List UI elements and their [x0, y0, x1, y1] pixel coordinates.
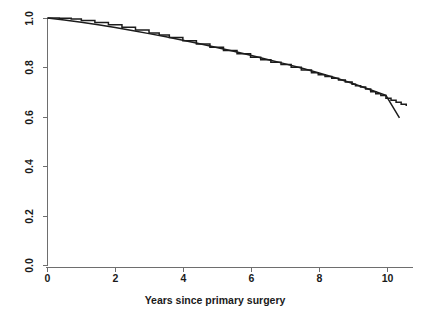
y-tick-label: 0.4 — [23, 159, 35, 174]
x-tick-label: 0 — [45, 272, 51, 284]
y-tick-label: 0.6 — [23, 110, 35, 125]
survival-plot: 1.0 0.8 0.6 0.4 0.2 0.0 0 2 4 6 8 10 — [0, 0, 430, 325]
y-tick-label: 0.0 — [23, 258, 35, 273]
y-tick-label: 0.2 — [23, 209, 35, 224]
y-tick-label: 0.8 — [23, 60, 35, 75]
y-tick-label: 1.0 — [23, 11, 35, 26]
plot-background — [0, 0, 430, 325]
x-tick-label: 6 — [249, 272, 255, 284]
chart-canvas: 1.0 0.8 0.6 0.4 0.2 0.0 0 2 4 6 8 10 — [0, 0, 430, 325]
x-tick-label: 10 — [382, 272, 394, 284]
x-tick-label: 2 — [113, 272, 119, 284]
x-tick-label: 4 — [181, 272, 187, 284]
x-tick-label: 8 — [317, 272, 323, 284]
x-axis-title: Years since primary surgery — [145, 294, 286, 306]
